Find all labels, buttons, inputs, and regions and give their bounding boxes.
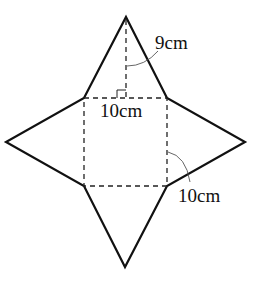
edge-leader-arc (168, 152, 190, 182)
net-outline (6, 17, 245, 267)
right-angle-mark (117, 90, 126, 98)
base-side-label: 10cm (100, 100, 142, 121)
height-label: 9cm (155, 32, 188, 53)
height-leader-arc (127, 51, 158, 66)
lateral-edge-label: 10cm (178, 185, 220, 206)
pyramid-net-diagram: 9cm 10cm 10cm (0, 0, 260, 285)
